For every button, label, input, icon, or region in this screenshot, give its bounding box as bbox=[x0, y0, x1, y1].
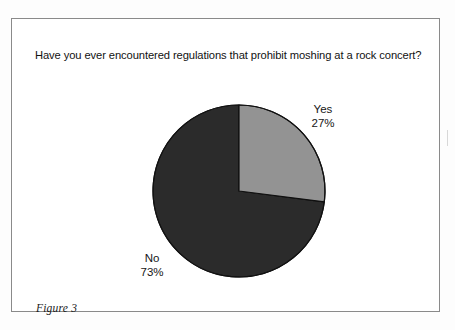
chart-title: Have you ever encountered regulations th… bbox=[35, 48, 445, 62]
pie-label-yes-name: Yes bbox=[295, 103, 351, 117]
pie-label-yes-percent: 27% bbox=[295, 117, 351, 131]
pie-chart-svg bbox=[12, 19, 455, 330]
scan-artifact bbox=[447, 130, 448, 146]
pie-label-no-name: No bbox=[124, 252, 180, 266]
pie-label-yes: Yes 27% bbox=[295, 103, 351, 130]
figure-caption: Figure 3 bbox=[36, 302, 77, 314]
pie-label-no-percent: 73% bbox=[124, 266, 180, 280]
pie-label-no: No 73% bbox=[124, 252, 180, 279]
figure-frame: Have you ever encountered regulations th… bbox=[11, 18, 440, 312]
pie-chart bbox=[12, 19, 455, 330]
